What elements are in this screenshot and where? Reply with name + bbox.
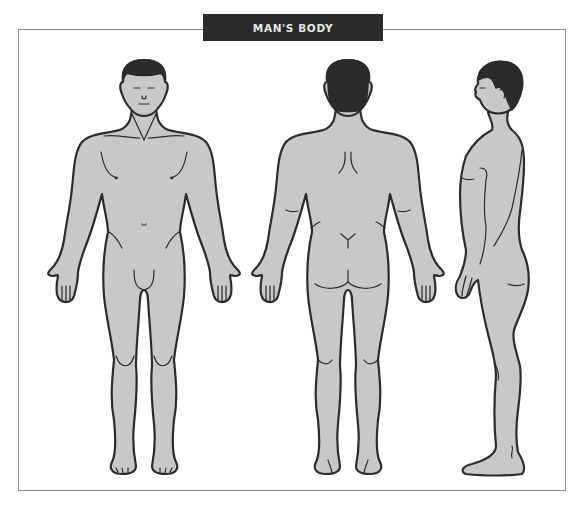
man-back-view-icon [252,60,444,474]
body-diagram [0,0,585,513]
man-side-view-icon [456,62,529,476]
man-front-view-icon [48,60,240,474]
